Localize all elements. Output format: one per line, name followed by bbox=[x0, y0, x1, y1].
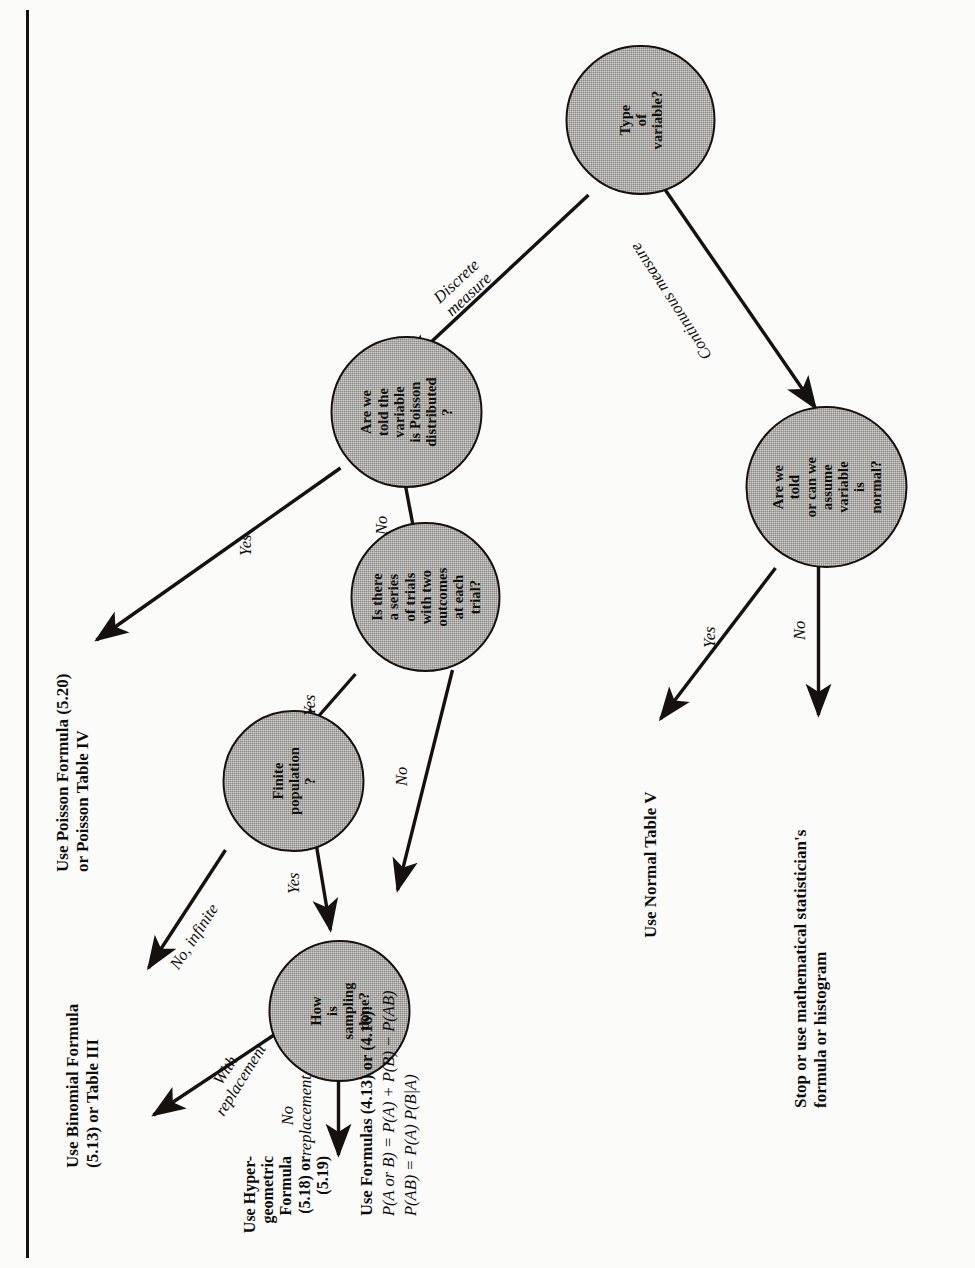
terminal-stop-result: Stop or use mathematical statistician's … bbox=[790, 708, 831, 1108]
terminal-normal-table-result: Use Normal Table V bbox=[640, 708, 660, 938]
flowchart-canvas: Type of variable? Are we told the variab… bbox=[0, 0, 975, 1268]
node-trials-question[interactable]: Is there a series of trials with two out… bbox=[350, 522, 500, 672]
node-normal-question[interactable]: Are we told or can we assume variable is… bbox=[745, 406, 907, 568]
edge-label-finite-yes: Yes bbox=[284, 873, 302, 894]
edge-label-no-replacement: No replacement bbox=[278, 1075, 315, 1156]
terminal-binomial-result: Use Binomial Formula (5.13) or Table III bbox=[62, 938, 103, 1168]
formula-line-2: P(AB) = P(A) P(B|A) bbox=[399, 886, 421, 1216]
node-type-of-variable[interactable]: Type of variable? bbox=[565, 45, 715, 195]
edge-label-normal-yes: Yes bbox=[700, 627, 718, 648]
formula-line-1: P(A or B) = P(A) + P(B) − P(AB) bbox=[377, 886, 399, 1216]
node-label-finite-population: Finite population ? bbox=[269, 741, 318, 821]
node-poisson-question[interactable]: Are we told the variable is Poisson dist… bbox=[330, 336, 482, 488]
node-label-type-of-variable: Type of variable? bbox=[616, 85, 665, 156]
formulas-heading: Use Formulas (4.13) or (4.16): bbox=[355, 886, 377, 1216]
terminal-poisson-result: Use Poisson Formula (5.20) or Poisson Ta… bbox=[52, 572, 93, 872]
edge-continuous-measure bbox=[660, 183, 815, 408]
edge-label-trials-yes: Yes bbox=[300, 695, 318, 716]
node-finite-population[interactable]: Finite population ? bbox=[222, 710, 364, 852]
edge-label-trials-no: No bbox=[392, 767, 410, 786]
edge-label-poisson-yes: Yes bbox=[236, 535, 254, 556]
edge-poisson-yes bbox=[96, 468, 340, 640]
scanned-page: Type of variable? Are we told the variab… bbox=[0, 0, 975, 1268]
edge-discrete-measure bbox=[406, 195, 588, 365]
node-label-trials-question: Is there a series of trials with two out… bbox=[368, 562, 482, 633]
node-label-poisson-question: Are we told the variable is Poisson dist… bbox=[357, 371, 454, 453]
edge-label-normal-no: No bbox=[790, 621, 808, 640]
probability-formulas-block: Use Formulas (4.13) or (4.16): P(A or B)… bbox=[355, 886, 420, 1216]
node-label-normal-question: Are we told or can we assume variable is… bbox=[769, 451, 883, 523]
edge-label-poisson-no: No bbox=[372, 516, 390, 535]
terminal-hypergeometric-result: Use Hyper- geometric Formula (5.18) or (… bbox=[240, 1156, 331, 1268]
